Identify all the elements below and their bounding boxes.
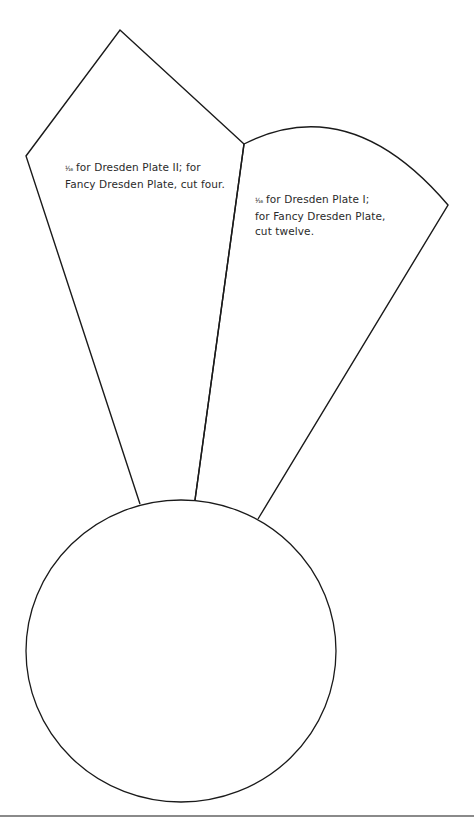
rounded-wedge-label: ¹⁄₁₆ for Dresden Plate I; for Fancy Dres… xyxy=(255,192,385,239)
pointed-wedge-outline xyxy=(26,30,244,504)
fraction-one-sixteenth: ¹⁄₁₆ xyxy=(65,165,73,173)
pointed-wedge-label-line1: ¹⁄₁₆ for Dresden Plate II; for xyxy=(65,160,225,177)
pointed-wedge-label-line2: Fancy Dresden Plate, cut four. xyxy=(65,177,225,192)
rounded-wedge-label-line3: cut twelve. xyxy=(255,224,385,239)
template-drawing xyxy=(0,0,474,819)
rounded-wedge-label-line2: for Fancy Dresden Plate, xyxy=(255,209,385,224)
fraction-one-sixteenth: ¹⁄₁₆ xyxy=(255,197,263,205)
page-bottom-rule xyxy=(0,815,474,817)
rounded-wedge-label-line1: ¹⁄₁₆ for Dresden Plate I; xyxy=(255,192,385,209)
rounded-wedge-outline xyxy=(195,127,448,519)
center-circle-outline xyxy=(26,500,336,802)
pointed-wedge-label: ¹⁄₁₆ for Dresden Plate II; for Fancy Dre… xyxy=(65,160,225,192)
